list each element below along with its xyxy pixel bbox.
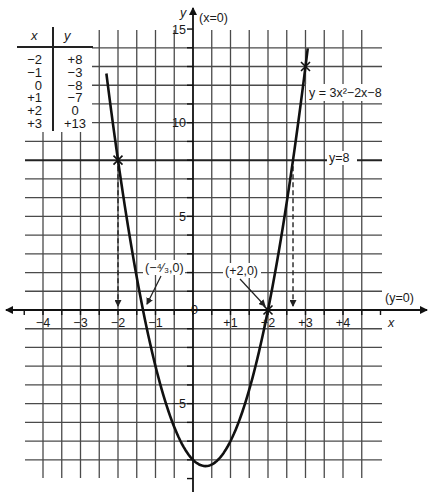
x-axis-equation: (y=0) <box>385 291 414 305</box>
y-tick-label: −5 <box>172 397 186 411</box>
y-tick-label: 15 <box>172 23 186 37</box>
x-tick-label: +3 <box>298 316 312 330</box>
horizontal-line-label: y=8 <box>329 151 350 165</box>
table-cell-y: −3 <box>61 66 89 79</box>
x-tick-label: −1 <box>148 316 162 330</box>
parabola-figure: y (x=0) (y=0) x 0 y = 3x²−2x−8 y=8 (−⁴⁄₃… <box>0 0 429 496</box>
root-left-leader-arrow <box>147 276 161 304</box>
curve-equation-label: y = 3x²−2x−8 <box>309 86 382 100</box>
x-tick-label: +4 <box>336 316 350 330</box>
axis-labels: y (x=0) (y=0) x 0 <box>179 6 423 330</box>
x-tick-label: +2 <box>261 316 275 330</box>
table-cell-y: +13 <box>61 117 89 130</box>
table-header-divider <box>17 46 93 48</box>
table-cell-x: +3 <box>27 117 42 130</box>
x-axis-label: x <box>387 316 395 330</box>
dashed-guides <box>118 166 293 306</box>
y-axis-label: y <box>179 6 187 20</box>
table-header-y: y <box>64 28 71 43</box>
origin-label: 0 <box>191 303 198 317</box>
table-header-x: x <box>31 28 38 43</box>
table-row: +3+13 <box>17 117 93 130</box>
root-left-label: (−⁴⁄₃,0) <box>145 261 184 275</box>
value-table: x y −2+8−1−30−8+1−7+20+3+13 <box>17 27 93 131</box>
y-tick-label: 10 <box>172 116 186 130</box>
table-cell-x: −1 <box>27 66 42 79</box>
x-tick-label: +1 <box>223 316 237 330</box>
table-row: −1−3 <box>17 66 93 79</box>
x-tick-label: −4 <box>36 316 50 330</box>
x-tick-label: −2 <box>111 316 125 330</box>
root-right-label: (+2,0) <box>225 264 258 278</box>
x-tick-label: −3 <box>73 316 87 330</box>
y-axis-equation: (x=0) <box>199 11 228 25</box>
root-right-leader-arrow <box>240 279 265 306</box>
y-tick-label: 5 <box>179 210 186 224</box>
